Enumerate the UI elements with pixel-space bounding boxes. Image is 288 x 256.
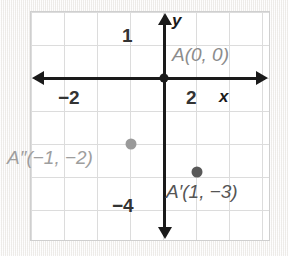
- gridline-horizontal: [31, 45, 269, 46]
- page-canvas: y x 1 −2 2 −4 A(0, 0) A″(−1, −2) A′(1, −…: [0, 0, 288, 256]
- x-axis-label: x: [219, 88, 228, 105]
- gridline-vertical: [97, 12, 98, 240]
- data-point-a-double-prime[interactable]: [126, 139, 137, 150]
- data-point-a-prime[interactable]: [192, 167, 203, 178]
- gridline-horizontal: [31, 12, 269, 13]
- point-label-a: A(0, 0): [172, 45, 229, 64]
- grid: [31, 12, 269, 240]
- gridline-horizontal: [31, 111, 269, 112]
- gridline-horizontal: [31, 177, 269, 178]
- data-point-a[interactable]: [160, 74, 169, 83]
- y-axis-label: y: [172, 12, 181, 29]
- tick-label-x-neg-2: −2: [58, 88, 80, 107]
- x-axis-arrow-left: [32, 71, 44, 85]
- point-label-a-prime: A′(1, −3): [166, 182, 238, 201]
- coordinate-plane: [30, 11, 270, 241]
- gridline-vertical: [31, 12, 32, 240]
- gridline-horizontal: [31, 240, 269, 241]
- tick-label-x-2: 2: [186, 88, 197, 107]
- gridline-vertical: [262, 12, 263, 240]
- tick-label-y-1: 1: [122, 26, 133, 45]
- x-axis: [35, 77, 265, 80]
- x-axis-arrow-right: [256, 71, 268, 85]
- point-label-a-double-prime: A″(−1, −2): [7, 148, 93, 167]
- gridline-vertical: [229, 12, 230, 240]
- y-axis: [163, 16, 166, 236]
- gridline-vertical: [64, 12, 65, 240]
- y-axis-arrow-down: [158, 227, 172, 239]
- gridline-horizontal: [31, 210, 269, 211]
- tick-label-y-neg-4: −4: [112, 196, 134, 215]
- gridline-horizontal: [31, 144, 269, 145]
- y-axis-arrow-up: [158, 13, 172, 25]
